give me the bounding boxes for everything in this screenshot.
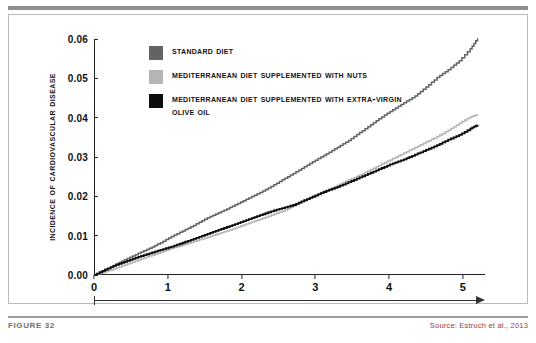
legend-swatch [149,46,163,60]
y-axis-title-text: Incidence of Cardiovascular Disease [45,73,57,241]
legend-label: Standard Diet [172,45,233,58]
series-line [94,125,478,275]
x-tick-mark [315,275,316,279]
x-tick-label: 5 [460,275,466,293]
x-tick-label: 1 [165,275,171,293]
x-tick-label: 0 [91,275,97,293]
legend-item-standard-diet: Standard Diet [149,45,409,60]
legend-item-med-diet-olive-oil: Mediterranean Diet Supplemented with Ext… [149,93,409,118]
y-tick-label: 0.02 [68,191,94,202]
y-axis-title: Incidence of Cardiovascular Disease [43,39,59,275]
series-line [94,115,478,275]
arrow-bar [94,300,476,301]
x-tick-label: 3 [312,275,318,293]
y-tick-mark [94,235,98,236]
y-tick-label: 0.03 [68,152,94,163]
y-tick-label: 0.04 [68,112,94,123]
x-tick-mark [462,275,463,279]
legend-item-med-diet-nuts: Mediterranean Diet Supplemented with Nut… [149,69,409,84]
y-tick-mark [94,39,98,40]
x-tick-mark [167,275,168,279]
x-tick-label: 4 [386,275,392,293]
x-tick-label: 2 [238,275,244,293]
chart-frame: Incidence of Cardiovascular Disease 0.00… [8,14,528,304]
y-tick-label: 0.01 [68,230,94,241]
figure-source: Source: Estruch et al., 2013 [430,321,528,330]
legend-swatch [149,70,163,84]
figure-root: Incidence of Cardiovascular Disease 0.00… [0,0,536,343]
figure-label: FIGURE 32 [8,321,55,330]
x-axis-arrow [94,296,485,305]
y-tick-mark [94,157,98,158]
y-tick-mark [94,117,98,118]
top-divider [8,6,528,10]
footer-divider [8,316,528,318]
y-tick-label: 0.06 [68,34,94,45]
legend-swatch [149,94,163,108]
legend-label: Mediterranean Diet Supplemented with Ext… [172,93,409,118]
x-tick-mark [241,275,242,279]
x-tick-mark [389,275,390,279]
y-tick-label: 0.05 [68,73,94,84]
arrow-head-icon [476,296,485,304]
y-tick-mark [94,78,98,79]
x-tick-mark [94,275,95,279]
y-tick-mark [94,196,98,197]
legend: Standard Diet Mediterranean Diet Supplem… [149,45,409,127]
legend-label: Mediterranean Diet Supplemented with Nut… [172,69,367,82]
